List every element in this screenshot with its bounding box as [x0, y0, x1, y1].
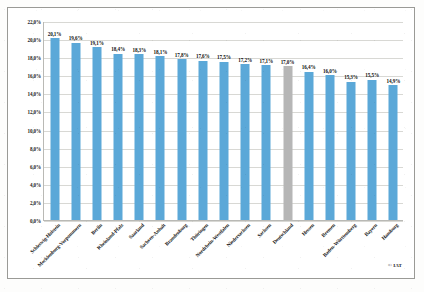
y-tick-label: 2,0% [30, 200, 41, 206]
bar[interactable] [368, 80, 377, 220]
bar-value-label: 18,3% [132, 47, 146, 53]
bar[interactable] [304, 72, 313, 220]
y-tick-label: 8,0% [30, 146, 41, 152]
bar[interactable] [325, 75, 334, 220]
x-category-label: Mecklenburg-Vorpommern [36, 222, 82, 268]
plot-area: 22,0%20,0%18,0%16,0%14,0%12,0%10,0%8,0%6… [43, 22, 403, 221]
bar[interactable] [389, 85, 398, 220]
y-tick-label: 14,0% [27, 91, 41, 97]
x-category-label: Sachsen [256, 222, 272, 238]
bar-value-label: 17,8% [175, 52, 189, 58]
bar[interactable] [219, 62, 228, 220]
x-category-label: Thüringen [189, 222, 209, 242]
credit-attribution: © IAT [388, 263, 402, 268]
bar-slot: 17,5% [213, 22, 234, 220]
y-tick-label: 22,0% [27, 19, 41, 25]
bar[interactable] [262, 65, 271, 220]
bar-value-label: 16,4% [302, 64, 316, 70]
bar-slot: 18,4% [108, 22, 129, 220]
bar-value-label: 15,3% [344, 74, 358, 80]
x-category-label: Hessen [300, 222, 315, 237]
chart-frame: 22,0%20,0%18,0%16,0%14,0%12,0%10,0%8,0%6… [7, 7, 415, 279]
bar-value-label: 17,2% [238, 57, 252, 63]
y-tick-label: 0,0% [30, 218, 41, 224]
bar[interactable] [135, 54, 144, 220]
bar-value-label: 18,1% [154, 49, 168, 55]
y-tick-label: 10,0% [27, 128, 41, 134]
bar[interactable] [347, 82, 356, 220]
bar-slot: 14,9% [383, 22, 404, 220]
bar[interactable] [156, 56, 165, 220]
bar-slot: 19,6% [65, 22, 86, 220]
bar[interactable] [50, 38, 59, 220]
x-category-label: Deutschland [271, 222, 294, 245]
x-category-label: Saarland [128, 222, 146, 240]
bar-value-label: 17,1% [259, 58, 273, 64]
bar-value-label: 18,4% [111, 46, 125, 52]
bar-slot: 20,1% [44, 22, 65, 220]
bar-slot: 19,1% [86, 22, 107, 220]
y-tick-label: 6,0% [30, 164, 41, 170]
bar-slot: 17,1% [256, 22, 277, 220]
bar-slot: 16,0% [319, 22, 340, 220]
bar[interactable] [283, 66, 292, 220]
y-tick-label: 16,0% [27, 73, 41, 79]
bar-value-label: 16,0% [323, 68, 337, 74]
bar-value-label: 15,5% [365, 72, 379, 78]
bar-slot: 17,2% [235, 22, 256, 220]
y-tick-label: 20,0% [27, 37, 41, 43]
y-tick-label: 18,0% [27, 55, 41, 61]
bar-slot: 17,6% [192, 22, 213, 220]
bar-slot: 18,1% [150, 22, 171, 220]
y-tick-label: 4,0% [30, 182, 41, 188]
x-axis-category-labels: Schleswig-HolsteinMecklenburg-Vorpommern… [43, 222, 403, 278]
bar[interactable] [198, 61, 207, 220]
bar-value-label: 17,0% [281, 59, 295, 65]
bar-value-label: 19,1% [90, 40, 104, 46]
y-tick-label: 12,0% [27, 109, 41, 115]
bar[interactable] [71, 43, 80, 220]
bar-value-label: 20,1% [48, 31, 62, 37]
bar[interactable] [92, 47, 101, 220]
bar-value-label: 19,6% [69, 35, 83, 41]
bar-slot: 16,4% [298, 22, 319, 220]
bar[interactable] [114, 54, 123, 220]
bar-slot: 15,5% [362, 22, 383, 220]
bar[interactable] [177, 59, 186, 220]
bar-slot: 15,3% [340, 22, 361, 220]
x-category-label: Bayern [363, 222, 378, 237]
bar-value-label: 14,9% [387, 78, 401, 84]
bar[interactable] [241, 64, 250, 220]
x-category-label: Bremen [320, 222, 336, 238]
bar-value-label: 17,5% [217, 54, 231, 60]
x-category-label: Brandenburg [163, 222, 188, 247]
bar-slot: 17,0% [277, 22, 298, 220]
bar-slot: 18,3% [129, 22, 150, 220]
bar-value-label: 17,6% [196, 53, 210, 59]
x-category-label: Hamburg [381, 222, 400, 241]
bar-slot: 17,8% [171, 22, 192, 220]
x-category-label: Berlin [90, 222, 104, 236]
bar-series: 20,1%19,6%19,1%18,4%18,3%18,1%17,8%17,6%… [44, 22, 403, 220]
